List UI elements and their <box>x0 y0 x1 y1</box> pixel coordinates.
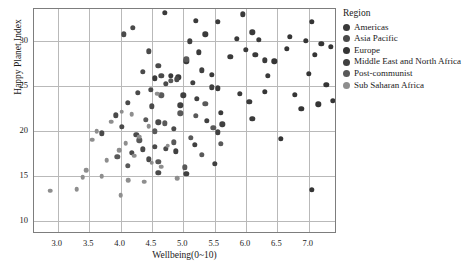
data-point <box>123 141 128 146</box>
data-point <box>204 118 209 123</box>
legend: Region AmericasAsia PacificEuropeMiddle … <box>343 8 461 91</box>
legend-swatch-icon <box>343 82 350 89</box>
data-point <box>262 89 267 94</box>
data-point <box>48 189 53 194</box>
y-tick-label-15: 15 <box>10 170 28 180</box>
data-point <box>125 100 130 105</box>
gridline-horizontal-10 <box>34 221 335 222</box>
data-point <box>175 176 180 181</box>
legend-swatch-icon <box>343 59 350 66</box>
legend-items: AmericasAsia PacificEuropeMiddle East an… <box>343 22 461 92</box>
x-axis-label: Wellbeing(0~10) <box>33 250 336 260</box>
legend-item-post-communist[interactable]: Post-communist <box>343 68 461 80</box>
data-point <box>209 85 214 90</box>
data-point <box>119 124 124 129</box>
x-tick-label-4.0: 4.0 <box>114 238 125 248</box>
data-point <box>165 144 170 149</box>
x-tick-label-6.0: 6.0 <box>240 238 251 248</box>
legend-item-asia-pacific[interactable]: Asia Pacific <box>343 33 461 45</box>
data-point <box>240 12 245 17</box>
data-point <box>253 52 258 57</box>
data-point <box>272 58 277 63</box>
gridline-vertical-3.5 <box>89 9 90 232</box>
gridline-horizontal-20 <box>34 131 335 132</box>
gridline-vertical-5.0 <box>183 9 184 232</box>
data-point <box>155 63 160 68</box>
data-point <box>287 34 292 39</box>
legend-swatch-icon <box>343 47 350 54</box>
y-axis-label: Happy Planet Index <box>13 0 23 127</box>
scatter-plot-figure: 3.03.54.04.55.05.56.06.57.0 1015202530 W… <box>0 0 465 274</box>
gridline-vertical-7.0 <box>309 9 310 232</box>
legend-item-sub-saharan-africa[interactable]: Sub Saharan Africa <box>343 80 461 92</box>
data-point <box>194 96 199 101</box>
data-point <box>328 44 333 49</box>
data-point <box>168 78 173 83</box>
data-point <box>203 31 208 36</box>
data-point <box>199 67 204 72</box>
data-point <box>126 178 131 183</box>
data-point <box>149 103 154 108</box>
legend-item-middle-east-and-north-africa[interactable]: Middle East and North Africa <box>343 56 461 68</box>
data-point <box>181 93 186 98</box>
gridline-vertical-4.0 <box>121 9 122 232</box>
data-point <box>115 154 120 159</box>
gridline-vertical-3.0 <box>58 9 59 232</box>
data-point <box>159 73 164 78</box>
gridline-vertical-5.5 <box>215 9 216 232</box>
data-point <box>218 141 223 146</box>
legend-item-americas[interactable]: Americas <box>343 22 461 34</box>
data-point <box>177 103 182 108</box>
data-point <box>135 90 140 95</box>
data-point <box>284 46 289 51</box>
data-point <box>130 112 135 117</box>
data-point <box>262 58 267 63</box>
data-point <box>94 129 99 134</box>
gridline-vertical-6.0 <box>246 9 247 232</box>
data-point <box>171 139 176 144</box>
data-point <box>159 93 164 98</box>
plot-area <box>33 8 336 233</box>
legend-item-label: Americas <box>354 22 388 34</box>
data-point <box>306 71 311 76</box>
data-point <box>215 85 220 90</box>
data-point <box>218 110 223 115</box>
data-point <box>215 19 220 24</box>
x-tick-label-3.0: 3.0 <box>51 238 62 248</box>
data-point <box>250 30 255 35</box>
data-point <box>162 121 167 126</box>
data-point <box>193 113 198 118</box>
data-point <box>187 39 192 44</box>
data-point <box>100 174 105 179</box>
legend-item-europe[interactable]: Europe <box>343 45 461 57</box>
data-point <box>152 129 157 134</box>
data-point <box>132 153 137 158</box>
data-point <box>99 130 104 135</box>
data-point <box>182 165 187 170</box>
data-point <box>193 18 198 23</box>
x-tick-label-7.0: 7.0 <box>302 238 313 248</box>
data-point <box>150 161 155 166</box>
legend-item-label: Asia Pacific <box>354 33 398 45</box>
data-point <box>192 142 197 147</box>
data-point <box>237 91 242 96</box>
data-point <box>117 148 122 153</box>
data-point <box>212 161 217 166</box>
legend-title: Region <box>343 8 461 20</box>
data-point <box>177 111 182 116</box>
data-point <box>228 54 233 59</box>
gridline-horizontal-30 <box>34 41 335 42</box>
gridline-horizontal-25 <box>34 86 335 87</box>
data-point <box>137 135 142 140</box>
data-point <box>162 10 167 15</box>
data-point <box>143 117 148 122</box>
data-point <box>142 180 147 185</box>
data-point <box>81 175 86 180</box>
data-point <box>246 99 251 104</box>
data-point <box>155 120 160 125</box>
data-point <box>159 164 164 169</box>
x-tick-label-6.5: 6.5 <box>271 238 282 248</box>
data-point <box>209 72 214 77</box>
data-point <box>309 19 314 24</box>
data-point <box>146 49 151 54</box>
